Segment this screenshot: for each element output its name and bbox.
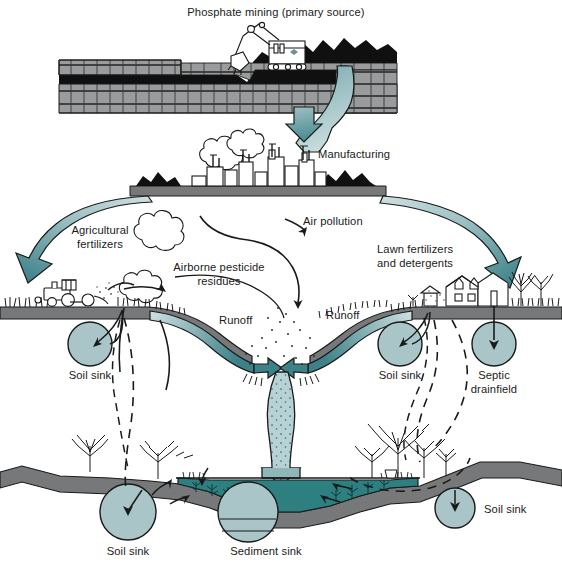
label-soil-sink-lower-right: Soil sink [484, 503, 527, 517]
groundwater-path-left-short [160, 320, 169, 390]
erosion-hatch-left [243, 374, 262, 386]
label-airborne-pesticide-line1: Airborne pesticide [152, 261, 286, 275]
label-airborne-pesticide-line2: residues [152, 275, 286, 289]
falling-particles [245, 307, 315, 365]
lawn-fertilizer-arrow [380, 196, 521, 288]
label-agricultural-fertilizers-line2: fertilizers [48, 238, 152, 252]
label-manufacturing: Manufacturing [318, 148, 390, 162]
bare-tree-icon-lower-left-1 [72, 435, 108, 472]
mine-scene [59, 22, 397, 152]
phosphorus-pollution-diagram: Phosphate mining (primary source) Manufa… [0, 0, 562, 567]
label-sediment-sink: Sediment sink [216, 545, 316, 559]
factory-ground [130, 186, 386, 196]
erosion-hatch-right [300, 374, 319, 386]
label-soil-sink-lower-left: Soil sink [96, 545, 160, 559]
label-runoff-right: Runoff [326, 309, 359, 323]
label-runoff-left: Runoff [219, 314, 252, 328]
bucket-icon [385, 470, 397, 478]
tractor-icon [35, 280, 108, 306]
soil-sink-circle-upper-left [68, 322, 112, 366]
bare-tree-icon-right [509, 272, 553, 306]
label-phosphate-mining: Phosphate mining (primary source) [164, 6, 388, 20]
label-agricultural-fertilizers-line1: Agricultural [48, 224, 152, 238]
plume-arrow-base [262, 468, 300, 478]
label-soil-sink-upper-left: Soil sink [58, 369, 122, 383]
label-soil-sink-upper-right: Soil sink [368, 369, 432, 383]
mine-bench-upper [59, 60, 181, 75]
label-air-pollution: Air pollution [303, 215, 363, 229]
factory-hill-left [136, 172, 181, 186]
bare-tree-icon-lower-left-2 [140, 441, 193, 479]
soil-sink-circle-upper-right [378, 322, 422, 366]
label-septic-drainfield-line1: Septic [462, 369, 526, 383]
sediment-plume [245, 307, 315, 486]
air-pollution-arrow [200, 216, 299, 303]
factory-hill-right [320, 170, 376, 186]
label-septic-drainfield-line2: drainfield [462, 383, 526, 397]
label-lawn-fertilizers-line2: and detergents [377, 257, 453, 271]
bare-tree-icon-small [408, 295, 418, 306]
house-icon [421, 273, 508, 306]
label-lawn-fertilizers-line1: Lawn fertilizers [377, 243, 453, 257]
sediment-sink-circle [218, 482, 278, 542]
groundwater-path-left [124, 318, 133, 488]
